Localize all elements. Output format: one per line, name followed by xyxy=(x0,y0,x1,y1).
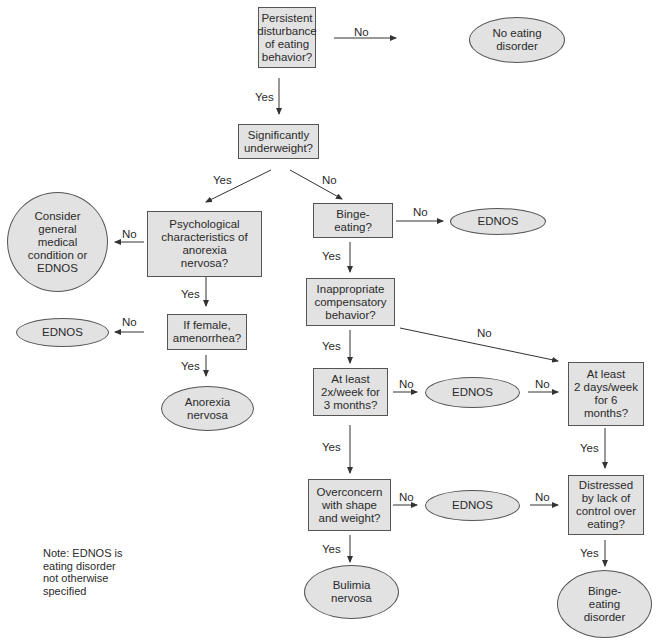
edge-label-yes: Yes xyxy=(580,442,599,455)
outcome-no-eating-disorder: No eating disorder xyxy=(469,17,565,63)
edge-label-no: No xyxy=(413,206,428,219)
decision-psychological-characteristics: Psychological characteristics of anorexi… xyxy=(147,211,262,277)
decision-binge-eating: Binge- eating? xyxy=(313,203,393,238)
edge-label-no: No xyxy=(122,228,137,241)
edge-label-no: No xyxy=(399,491,414,504)
outcome-ednos-binge: EDNOS xyxy=(450,208,546,235)
edge-label-no: No xyxy=(399,378,414,391)
edge-label-yes: Yes xyxy=(213,174,232,187)
edge-label-no: No xyxy=(477,327,492,340)
outcome-anorexia-nervosa: Anorexia nervosa xyxy=(161,386,254,431)
edge-label-no: No xyxy=(535,378,550,391)
edge-label-no: No xyxy=(122,316,137,329)
edge-label-no: No xyxy=(535,491,550,504)
edge-label-yes: Yes xyxy=(322,340,341,353)
outcome-ednos-twice-weekly: EDNOS xyxy=(425,377,520,408)
edge-label-no: No xyxy=(354,26,369,39)
outcome-consider-general-medical: Consider general medical condition or ED… xyxy=(7,192,108,292)
outcome-bulimia-nervosa: Bulimia nervosa xyxy=(304,565,399,619)
edge-label-yes: Yes xyxy=(181,360,200,373)
edge-label-yes: Yes xyxy=(181,288,200,301)
decision-two-days-weekly: At least 2 days/week for 6 months? xyxy=(568,362,644,426)
edge-label-yes: Yes xyxy=(255,91,274,104)
ednos-footnote: Note: EDNOS is eating disorder not other… xyxy=(43,547,122,597)
decision-persistent-disturbance: Persistent disturbance of eating behavio… xyxy=(258,7,316,68)
decision-amenorrhea: If female, amenorrhea? xyxy=(167,314,247,350)
edge-label-yes: Yes xyxy=(322,543,341,556)
outcome-ednos-overconcern: EDNOS xyxy=(425,490,520,521)
edge-label-yes: Yes xyxy=(322,250,341,263)
decision-significantly-underweight: Significantly underweight? xyxy=(238,124,319,159)
edge-label-no: No xyxy=(322,174,337,187)
edge-label-yes: Yes xyxy=(580,547,599,560)
decision-compensatory-behavior: Inappropriate compensatory behavior? xyxy=(306,278,395,326)
outcome-ednos-amenorrhea: EDNOS xyxy=(16,318,109,347)
outcome-binge-eating-disorder: Binge- eating disorder xyxy=(557,570,652,638)
decision-distressed: Distressed by lack of control over eatin… xyxy=(568,475,644,535)
decision-overconcern: Overconcern with shape and weight? xyxy=(308,479,391,531)
decision-twice-weekly: At least 2x/week for 3 months? xyxy=(313,368,388,416)
edge-label-yes: Yes xyxy=(322,441,341,454)
